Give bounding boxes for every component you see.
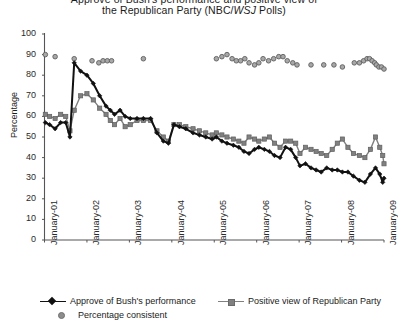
data-point-marker [237,139,241,143]
data-point [43,52,48,57]
data-point [257,61,262,66]
data-point-marker [373,135,377,139]
x-tick-label: January-09 [388,200,398,245]
data-point [332,63,337,68]
data-point-marker [351,151,355,155]
data-point-marker [278,145,282,149]
data-point [141,56,146,61]
data-point [382,67,387,72]
data-point-marker [214,131,218,135]
data-point-marker [267,135,271,139]
data-point-marker [247,135,251,139]
data-point-marker [294,141,298,145]
data-point-marker [283,139,287,143]
data-point-marker [64,114,68,118]
data-point-marker [231,137,235,141]
data-point [247,61,252,66]
series-line [45,63,384,182]
data-point [90,58,95,63]
circle-marker-icon [48,311,74,320]
data-point-marker [257,139,261,143]
data-point-marker [242,141,246,145]
data-point-marker [330,147,334,151]
data-point-marker [123,125,127,129]
data-point-marker [78,94,82,98]
data-point [295,63,300,68]
data-point [214,56,219,61]
data-point-marker [325,153,329,157]
series-line-group [43,92,386,166]
data-point [285,58,290,63]
data-point-marker [59,112,63,116]
data-point-marker [309,147,313,151]
data-point-marker [197,129,201,133]
data-point-marker [220,133,224,137]
data-point [271,56,276,61]
data-point [261,56,266,61]
data-point-marker [357,153,361,157]
data-point-marker [382,162,386,166]
data-point-marker [72,108,76,112]
line-diamond-marker-icon [40,297,66,306]
data-point [352,61,357,66]
data-point-marker [319,151,323,155]
data-point [321,63,326,68]
data-point-marker [262,137,266,141]
data-point [225,52,230,57]
data-point-marker [43,112,47,116]
data-point [309,63,314,68]
data-point-marker [314,149,318,153]
data-point-marker [91,98,95,102]
data-point-marker [104,112,108,116]
legend-label-approve: Approve of Bush's performance [70,296,196,306]
data-point [243,56,248,61]
data-point-marker [210,133,214,137]
data-point-marker [289,139,293,143]
data-point-marker [204,131,208,135]
data-point-marker [340,137,344,141]
data-point-marker [252,137,256,141]
legend-label-positive: Positive view of Republican Party [248,296,381,306]
data-point-marker [53,116,57,120]
data-point [109,58,114,63]
data-point-marker [85,92,89,96]
data-point [266,58,271,63]
legend-item-consistent: Percentage consistent [48,310,167,320]
series-circle-points [43,52,386,71]
data-point-marker [346,145,350,149]
data-point-marker [128,123,132,127]
data-point-marker [108,118,112,122]
data-point-marker [191,127,195,131]
data-point-marker [381,153,385,157]
data-point-marker [298,151,302,155]
legend-item-positive: Positive view of Republican Party [218,296,381,306]
data-point-marker [118,116,122,120]
data-point-marker [272,141,276,145]
legend-item-approve: Approve of Bush's performance [40,296,196,306]
data-point-marker [368,147,372,151]
data-point [220,54,225,59]
data-point-marker [68,135,72,139]
data-point-marker [303,145,307,149]
data-point-marker [378,145,382,149]
data-point [53,54,58,59]
data-point [281,54,286,59]
series-line [45,94,384,164]
data-point-marker [47,114,51,118]
data-point [340,65,345,70]
data-point-marker [335,141,339,145]
data-point-marker [98,106,102,110]
legend-label-consistent: Percentage consistent [78,310,167,320]
data-point-marker [225,135,229,139]
data-point-marker [112,123,116,127]
series-line-group [43,61,386,185]
data-point-marker [363,156,367,160]
line-square-marker-icon [218,297,244,306]
